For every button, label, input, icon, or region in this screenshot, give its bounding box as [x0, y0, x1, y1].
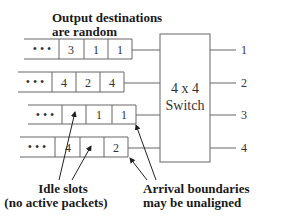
queue-2-cell-3: 4 [109, 76, 115, 90]
annotation-arrows [59, 112, 156, 180]
arrow-arrival-boundary-2 [136, 125, 156, 180]
arrival-annotation-line1: Arrival boundaries [143, 181, 250, 196]
title-annotation-line2: are random [52, 24, 117, 39]
idle-annotation-line1: Idle slots [38, 181, 87, 196]
queue-4-cell-3: 2 [113, 141, 119, 155]
queue-3-ellipsis: • • • [36, 108, 55, 122]
arrival-annotation-line2: may be unaligned [143, 195, 242, 210]
queue-1-ellipsis: • • • [33, 42, 52, 56]
queue-2-cell-2: 2 [85, 76, 91, 90]
queue-4-ellipsis: • • • [28, 140, 47, 154]
queue-1-cell-2: 1 [93, 43, 99, 57]
queue-3-cell-3: 1 [121, 108, 127, 122]
arrow-arrival-boundary-1 [130, 158, 147, 180]
switch-diagram: Output destinations are random • • • 3 1… [0, 0, 288, 220]
idle-annotation-line2: (no active packets) [4, 195, 107, 210]
queue-1-cell-3: 1 [117, 43, 123, 57]
output-label-2: 2 [241, 76, 247, 90]
output-label-4: 4 [241, 141, 247, 155]
arrow-idle-slot-1 [59, 112, 75, 180]
queue-1-cell-1: 3 [68, 43, 74, 57]
queue-2-cell-1: 4 [61, 76, 67, 90]
switch-label-line2: Switch [166, 98, 205, 113]
output-lines [210, 50, 236, 148]
arrow-idle-slot-2 [72, 146, 91, 180]
queue-2-ellipsis: • • • [26, 75, 45, 89]
switch-label-line1: 4 x 4 [171, 81, 199, 96]
output-label-1: 1 [241, 43, 247, 57]
queue-3-cell-2: 1 [96, 108, 102, 122]
output-label-3: 3 [241, 108, 247, 122]
title-annotation-line1: Output destinations [52, 10, 162, 25]
